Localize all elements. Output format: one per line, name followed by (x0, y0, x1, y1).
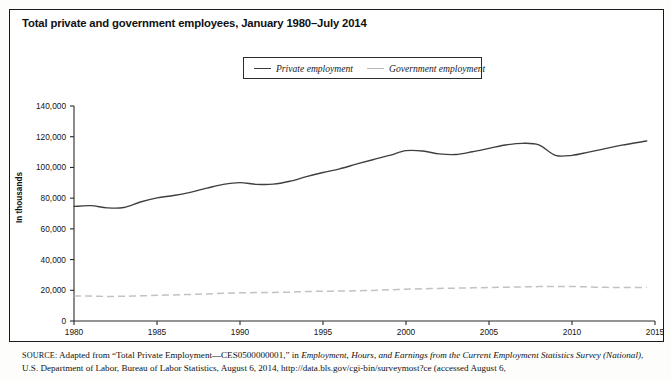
source-note: SOURCE: Adapted from “Total Private Empl… (22, 349, 656, 375)
y-tick-label: 0 (61, 316, 66, 326)
x-tick-label: 2015 (646, 327, 665, 337)
figure-container: Total private and government employees, … (0, 0, 671, 381)
source-text-1: Adapted from “Total Private Employment—C… (57, 350, 301, 360)
x-tick-label: 2005 (480, 327, 499, 337)
y-tick-label: 80,000 (41, 193, 67, 203)
y-axis: 020,00040,00060,00080,000100,000120,0001… (36, 101, 74, 326)
y-tick-label: 60,000 (41, 224, 67, 234)
source-italic-title: Employment, Hours, and Earnings from the… (301, 350, 641, 360)
y-tick-label: 20,000 (41, 285, 67, 295)
chart-plot-area: 020,00040,00060,00080,000100,000120,0001… (0, 0, 671, 345)
x-tick-label: 1985 (148, 327, 167, 337)
x-tick-label: 2010 (563, 327, 582, 337)
series-line-private (74, 141, 647, 208)
x-tick-label: 1995 (314, 327, 333, 337)
y-tick-group: 020,00040,00060,00080,000100,000120,0001… (36, 101, 74, 326)
y-tick-label: 40,000 (41, 255, 67, 265)
y-tick-label: 120,000 (36, 132, 66, 142)
x-tick-label: 1990 (231, 327, 250, 337)
x-tick-label: 1980 (65, 327, 84, 337)
x-axis: 19801985199019952000200520102015 (65, 321, 665, 337)
y-tick-label: 140,000 (36, 101, 66, 111)
x-tick-label: 2000 (397, 327, 416, 337)
y-tick-label: 100,000 (36, 162, 66, 172)
source-label: SOURCE: (22, 351, 57, 360)
series-line-government (74, 286, 647, 296)
x-tick-group: 19801985199019952000200520102015 (65, 321, 665, 337)
